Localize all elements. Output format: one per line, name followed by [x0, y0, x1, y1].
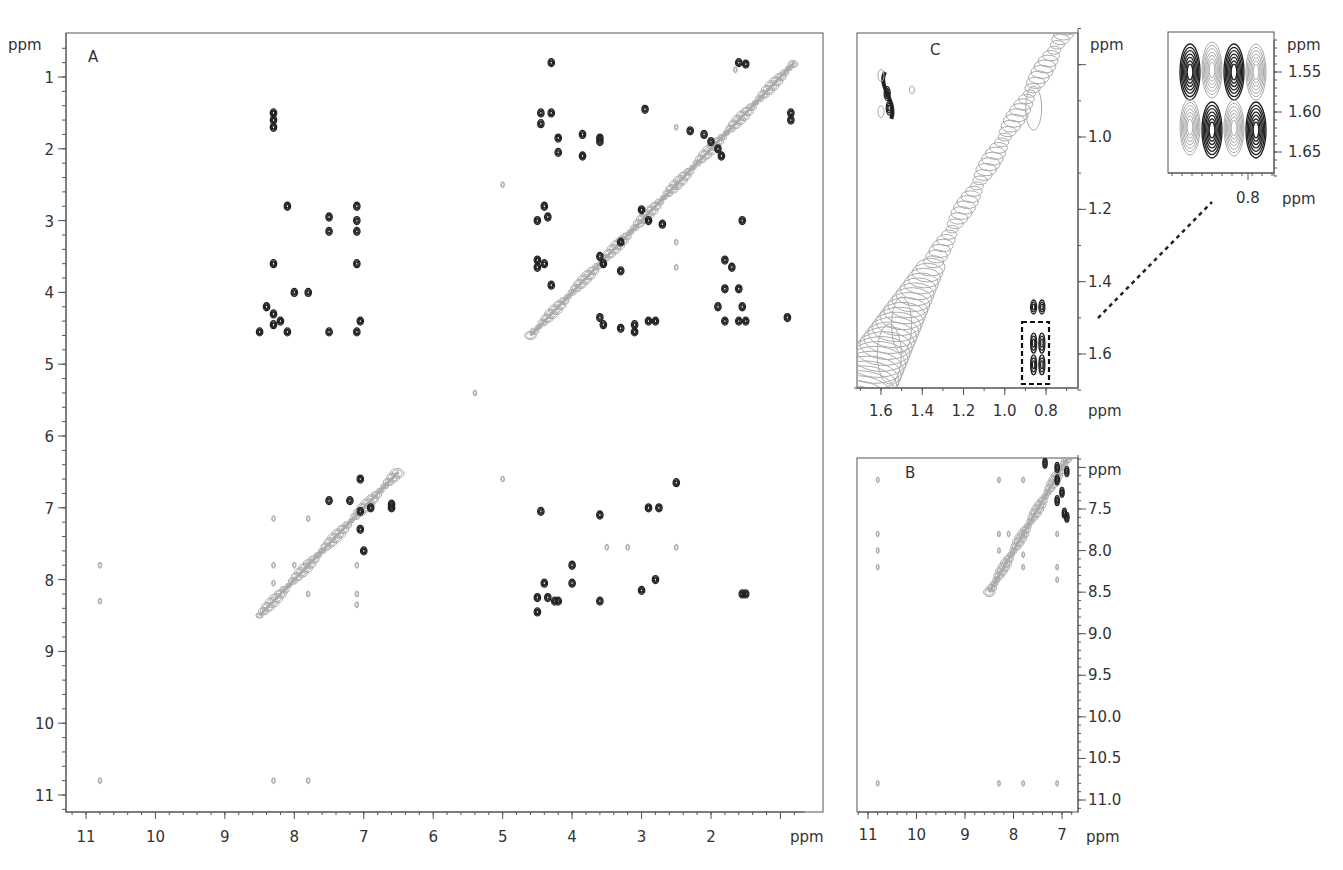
y-tick-label: 6: [44, 428, 54, 446]
positive-peak: [741, 305, 744, 308]
negative-peak: [1022, 565, 1024, 569]
negative-peak: [99, 599, 102, 603]
negative-peak: [734, 68, 737, 72]
panel-b-frame: [857, 458, 1078, 812]
x-tick-label: 0.8: [1236, 189, 1260, 207]
positive-peak: [540, 111, 543, 114]
positive-peak: [790, 118, 793, 121]
panel-b-x-unit: ppm: [1086, 828, 1120, 846]
positive-peak: [359, 528, 362, 531]
negative-peak: [307, 516, 310, 520]
positive-peak: [633, 330, 636, 333]
inset-x-axis: 0.8: [1168, 173, 1274, 207]
x-tick-label: 2: [706, 828, 716, 846]
positive-peak: [1064, 511, 1066, 515]
x-tick-label: 10: [146, 828, 165, 846]
positive-peak: [647, 219, 650, 222]
negative-peak: [1056, 781, 1058, 785]
positive-peak: [658, 506, 661, 509]
nmr-figure: 111098765432 1234567891011 A ppm ppm 1.6…: [0, 0, 1343, 870]
positive-peak: [661, 223, 664, 226]
negative-peak: [356, 563, 359, 567]
positive-peak: [581, 133, 584, 136]
x-tick-label: 6: [428, 828, 438, 846]
positive-peak: [293, 291, 296, 294]
y-tick-label: 8.5: [1088, 583, 1112, 601]
positive-peak: [647, 506, 650, 509]
positive-peak: [689, 129, 692, 132]
x-tick-label: 9: [220, 828, 230, 846]
positive-peak: [272, 111, 275, 114]
y-tick-label: 9: [44, 643, 54, 661]
positive-peak: [356, 262, 359, 265]
y-tick-label: 1.65: [1288, 143, 1321, 161]
negative-peak: [307, 592, 310, 596]
positive-peak: [720, 154, 723, 157]
x-tick-label: 3: [637, 828, 647, 846]
positive-peak: [328, 230, 331, 233]
positive-peak: [640, 208, 643, 211]
positive-peak: [599, 255, 602, 258]
positive-peak: [557, 151, 560, 154]
negative-peak: [356, 592, 359, 596]
x-tick-label: 11: [76, 828, 95, 846]
panel-c-contours: [812, 22, 1077, 431]
positive-peak: [265, 305, 268, 308]
negative-peak: [1253, 64, 1259, 80]
x-tick-label: 7: [1057, 826, 1067, 844]
inset-connector-line: [1098, 202, 1212, 318]
negative-peak: [1209, 62, 1215, 78]
positive-peak: [717, 305, 720, 308]
positive-peak: [675, 481, 678, 484]
positive-peak: [543, 262, 546, 265]
positive-peak: [359, 320, 362, 323]
panel-b-spectrum: 1110987 7.58.08.59.09.510.010.511.0 B pp…: [857, 450, 1122, 846]
negative-peak: [1056, 578, 1058, 582]
y-tick-label: 8.0: [1088, 542, 1112, 560]
positive-peak: [1032, 304, 1034, 310]
negative-peak: [998, 548, 1000, 552]
positive-peak: [1056, 499, 1058, 503]
negative-peak: [272, 581, 275, 585]
positive-peak: [654, 578, 657, 581]
panel-a-label: A: [88, 48, 99, 66]
positive-peak: [737, 320, 740, 323]
negative-peak: [675, 125, 678, 129]
positive-peak: [703, 133, 706, 136]
negative-peak: [877, 565, 879, 569]
negative-peak: [272, 779, 275, 783]
positive-peak: [744, 62, 747, 65]
negative-peak: [675, 265, 678, 269]
positive-peak: [1041, 339, 1043, 347]
y-tick-label: 3: [44, 213, 54, 231]
y-tick-label: 11.0: [1088, 791, 1121, 809]
negative-peak: [675, 240, 678, 244]
positive-peak: [1032, 361, 1034, 369]
negative-peak: [1202, 42, 1222, 98]
positive-peak: [888, 105, 890, 111]
y-tick-label: 10: [35, 715, 54, 733]
positive-peak: [1032, 339, 1034, 347]
panel-a-y-axis: 1234567891011: [35, 33, 66, 812]
positive-peak: [272, 118, 275, 121]
positive-peak: [1041, 304, 1043, 310]
panel-c-spectrum: 1.61.41.21.00.8 1.01.21.41.6 C ppm ppm: [812, 22, 1124, 431]
positive-peak: [1253, 122, 1259, 138]
positive-peak: [272, 262, 275, 265]
inset-contours: [1180, 42, 1266, 158]
negative-peak: [1231, 120, 1237, 136]
positive-peak: [286, 330, 289, 333]
inset-y-axis: 1.551.601.65: [1274, 40, 1321, 176]
positive-peak: [540, 510, 543, 513]
panel-b-contours: [876, 450, 1075, 786]
panel-c-y-axis: 1.01.21.41.6: [1078, 29, 1112, 391]
positive-peak: [731, 266, 734, 269]
negative-peak: [1065, 452, 1073, 458]
positive-peak: [737, 61, 740, 64]
panel-b-y-unit: ppm: [1088, 461, 1122, 479]
positive-peak: [744, 320, 747, 323]
positive-peak: [550, 284, 553, 287]
positive-peak: [571, 564, 574, 567]
y-tick-label: 1: [44, 69, 54, 87]
negative-peak: [877, 478, 879, 482]
